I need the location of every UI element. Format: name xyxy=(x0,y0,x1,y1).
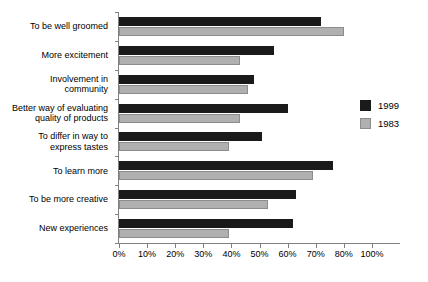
bar-1983 xyxy=(119,85,248,94)
bar-1999 xyxy=(119,190,296,199)
bar-1983 xyxy=(119,56,240,65)
bar-group xyxy=(119,128,400,157)
bar-1999 xyxy=(119,17,321,26)
category-label: Involvement in community xyxy=(0,70,114,99)
bar-group xyxy=(119,214,400,243)
x-axis-tick-label: 100% xyxy=(360,249,383,259)
x-axis-tick xyxy=(175,243,176,248)
x-axis-tick xyxy=(316,243,317,248)
x-axis-tick-label: 20% xyxy=(166,249,184,259)
bar-1983 xyxy=(119,142,229,151)
x-axis-tick xyxy=(344,243,345,248)
bar-group xyxy=(119,70,400,99)
category-label: Better way of evaluating quality of prod… xyxy=(0,99,114,128)
legend-item: 1983 xyxy=(360,118,399,129)
bar-1983 xyxy=(119,27,344,36)
x-axis-tick-label: 80% xyxy=(335,249,353,259)
bar-1999 xyxy=(119,161,333,170)
bar-group xyxy=(119,12,400,41)
plot-area xyxy=(119,12,400,243)
x-axis-tick xyxy=(147,243,148,248)
bar-1983 xyxy=(119,229,229,238)
x-axis-tick-label: 50% xyxy=(250,249,268,259)
x-axis-tick xyxy=(288,243,289,248)
x-axis-tick xyxy=(372,243,373,248)
x-axis-tick-label: 70% xyxy=(307,249,325,259)
legend-item: 1999 xyxy=(360,100,399,111)
legend-label: 1983 xyxy=(378,118,399,129)
x-axis-tick-label: 60% xyxy=(279,249,297,259)
bar-1999 xyxy=(119,46,274,55)
legend-swatch-icon xyxy=(360,100,371,111)
x-axis-tick-label: 30% xyxy=(194,249,212,259)
legend-label: 1999 xyxy=(378,100,399,111)
x-axis-tick xyxy=(119,243,120,248)
bar-1999 xyxy=(119,104,288,113)
category-tick xyxy=(115,41,119,42)
bar-group xyxy=(119,156,400,185)
bar-1983 xyxy=(119,171,313,180)
category-label: To be more creative xyxy=(0,185,114,214)
category-tick xyxy=(115,214,119,215)
bar-1999 xyxy=(119,219,293,228)
x-axis-tick-label: 40% xyxy=(222,249,240,259)
bar-1999 xyxy=(119,132,262,141)
category-tick xyxy=(115,70,119,71)
category-label: To be well groomed xyxy=(0,12,114,41)
category-label: To learn more xyxy=(0,156,114,185)
category-tick xyxy=(115,128,119,129)
x-axis: 0%10%20%30%40%50%60%70%80%100% xyxy=(119,243,400,271)
category-axis: To be well groomedMore excitementInvolve… xyxy=(0,12,114,243)
bar-1983 xyxy=(119,114,240,123)
category-tick xyxy=(115,12,119,13)
bar-1983 xyxy=(119,200,268,209)
legend-swatch-icon xyxy=(360,118,371,129)
category-label: New experiences xyxy=(0,214,114,243)
bar-1999 xyxy=(119,75,254,84)
bar-groups xyxy=(119,12,400,243)
x-axis-tick xyxy=(203,243,204,248)
category-tick xyxy=(115,185,119,186)
bar-group xyxy=(119,99,400,128)
x-axis-tick xyxy=(231,243,232,248)
x-axis-tick-label: 0% xyxy=(112,249,125,259)
category-tick xyxy=(115,99,119,100)
bar-chart: To be well groomedMore excitementInvolve… xyxy=(0,0,428,282)
category-label: To differ in way to express tastes xyxy=(0,128,114,157)
chart-legend: 19991983 xyxy=(360,100,399,129)
bar-group xyxy=(119,185,400,214)
x-axis-tick-label: 10% xyxy=(138,249,156,259)
category-label: More excitement xyxy=(0,41,114,70)
x-axis-tick xyxy=(260,243,261,248)
bar-group xyxy=(119,41,400,70)
category-tick xyxy=(115,156,119,157)
